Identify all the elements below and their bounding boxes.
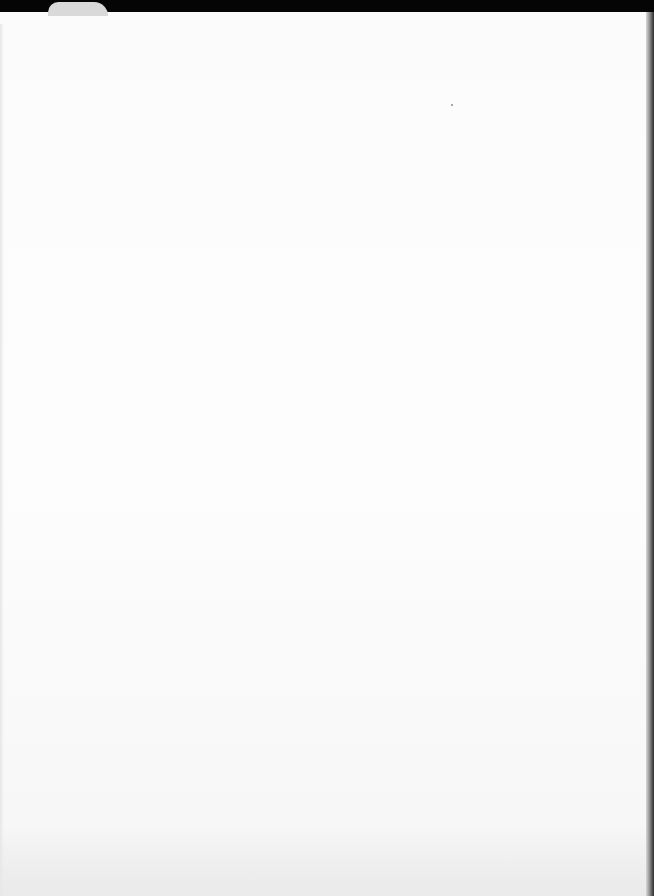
scan-speck [451,104,453,106]
curled-corner [48,2,108,16]
paper-right-edge-shadow [646,12,654,896]
blank-paper-sheet [0,12,646,896]
paper-left-edge [0,24,4,896]
scanned-page [0,0,654,896]
